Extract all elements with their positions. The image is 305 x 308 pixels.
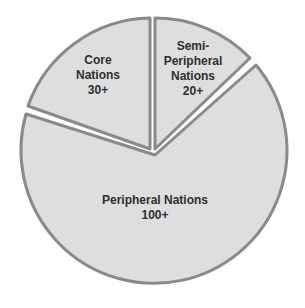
label-line: Peripheral [164, 54, 223, 69]
label-value: 30+ [76, 83, 120, 98]
label-line: Peripheral Nations [102, 193, 208, 208]
label-core-nations: Core Nations 30+ [76, 53, 120, 98]
label-line: Semi- [164, 39, 223, 54]
label-value: 100+ [102, 208, 208, 223]
label-peripheral-nations: Peripheral Nations 100+ [102, 193, 208, 223]
label-semi-peripheral-nations: Semi- Peripheral Nations 20+ [164, 39, 223, 99]
label-line: Nations [76, 68, 120, 83]
label-value: 20+ [164, 84, 223, 99]
pie-chart [0, 0, 305, 308]
label-line: Core [76, 53, 120, 68]
label-line: Nations [164, 69, 223, 84]
